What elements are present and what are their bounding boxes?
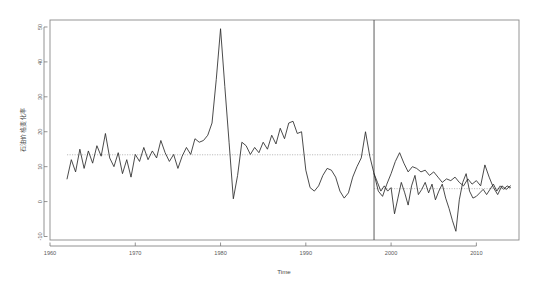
y-tick-label: 10 (37, 164, 43, 170)
y-tick-label: 0 (37, 200, 43, 203)
x-tick-label: 2000 (385, 250, 397, 256)
data-series-group (67, 29, 510, 232)
x-tick-label: 1960 (44, 250, 56, 256)
y-tick-label: 30 (37, 94, 43, 100)
y-tick-label: -10 (37, 232, 43, 240)
x-tick-label: 1980 (214, 250, 226, 256)
y-tick-label: 40 (37, 59, 43, 65)
y-axis: -1001020304050 (37, 24, 48, 241)
segment-mean-lines (67, 155, 510, 189)
chart-container: -1001020304050 196019701980199020002010 … (0, 0, 540, 287)
x-axis-title: Time (277, 268, 291, 275)
oil-price-change-rate-line-chart: -1001020304050 196019701980199020002010 … (0, 0, 540, 287)
y-tick-label: 50 (37, 24, 43, 30)
x-tick-label: 1970 (129, 250, 141, 256)
y-tick-label: 20 (37, 129, 43, 135)
series-path-0 (67, 29, 510, 199)
x-tick-label: 1990 (300, 250, 312, 256)
y-axis-title: 石油价格变化率 (19, 108, 27, 153)
x-axis: 196019701980199020002010 (44, 243, 483, 257)
x-tick-label: 2010 (470, 250, 482, 256)
